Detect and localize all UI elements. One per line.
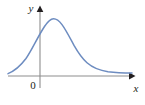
figure-container: y x 0 — [0, 0, 145, 105]
y-axis-label: y — [28, 2, 34, 14]
origin-label: 0 — [30, 79, 36, 91]
plotted-curve — [8, 19, 132, 74]
x-axis-label: x — [133, 82, 139, 94]
coordinate-plane-figure: y x 0 — [0, 0, 145, 105]
y-axis-arrowhead-icon — [37, 6, 44, 13]
